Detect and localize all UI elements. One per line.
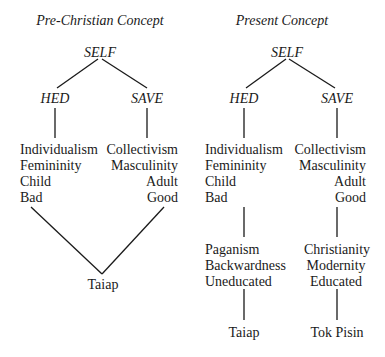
association: Christianity bbox=[304, 242, 368, 258]
left-self-node: SELF bbox=[84, 45, 116, 61]
right-save-node: SAVE bbox=[321, 91, 353, 107]
right-hed-associations: Paganism Backwardness Uneducated bbox=[205, 242, 286, 290]
trait: Child bbox=[205, 174, 283, 190]
association: Uneducated bbox=[205, 274, 286, 290]
trait: Collectivism bbox=[294, 142, 366, 158]
right-save-associations: Christianity Modernity Educated bbox=[304, 242, 368, 290]
trait: Good bbox=[106, 190, 178, 206]
left-language-node: Taiap bbox=[88, 277, 119, 293]
right-self-node: SELF bbox=[271, 45, 303, 61]
trait: Masculinity bbox=[294, 158, 366, 174]
right-title: Present Concept bbox=[236, 13, 328, 29]
trait: Child bbox=[20, 174, 98, 190]
trait: Adult bbox=[106, 174, 178, 190]
left-save-traits: Collectivism Masculinity Adult Good bbox=[106, 142, 178, 206]
right-hed-language-node: Taiap bbox=[229, 325, 260, 341]
trait: Individualism bbox=[205, 142, 283, 158]
right-save-language-node: Tok Pisin bbox=[310, 325, 363, 341]
trait: Bad bbox=[205, 190, 283, 206]
trait: Good bbox=[294, 190, 366, 206]
left-hed-traits: Individualism Femininity Child Bad bbox=[20, 142, 98, 206]
association: Paganism bbox=[205, 242, 286, 258]
right-hed-node: HED bbox=[230, 91, 259, 107]
association: Modernity bbox=[304, 258, 368, 274]
left-save-node: SAVE bbox=[131, 91, 163, 107]
left-hed-node: HED bbox=[41, 91, 70, 107]
association: Educated bbox=[304, 274, 368, 290]
trait: Individualism bbox=[20, 142, 98, 158]
right-hed-traits: Individualism Femininity Child Bad bbox=[205, 142, 283, 206]
trait: Femininity bbox=[20, 158, 98, 174]
left-title: Pre-Christian Concept bbox=[36, 13, 163, 29]
trait: Collectivism bbox=[106, 142, 178, 158]
trait: Masculinity bbox=[106, 158, 178, 174]
right-save-traits: Collectivism Masculinity Adult Good bbox=[294, 142, 366, 206]
trait: Adult bbox=[294, 174, 366, 190]
trait: Femininity bbox=[205, 158, 283, 174]
association: Backwardness bbox=[205, 258, 286, 274]
trait: Bad bbox=[20, 190, 98, 206]
